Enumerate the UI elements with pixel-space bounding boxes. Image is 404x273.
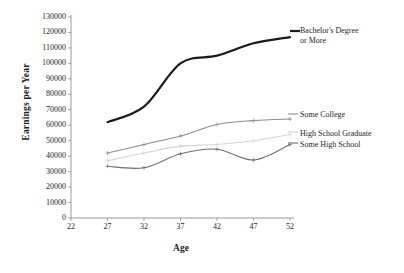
series-line-some-high-school [108, 145, 291, 169]
series-marker [106, 159, 110, 163]
series-marker [252, 139, 256, 143]
series-line-bachelor-s-degree-or-more [108, 37, 291, 122]
chart-figure: Earnings per Year 1300001200001100001000… [0, 0, 404, 273]
x-axis-title: Age [71, 243, 291, 253]
series-label-bachelors-degree: Bachelor's Degree or More [300, 26, 359, 45]
series-marker [215, 122, 219, 126]
series-marker [106, 164, 110, 168]
series-marker [215, 143, 219, 147]
series-label-high-school-graduate: High School Graduate [300, 129, 372, 139]
series-label-line1: Bachelor's Degree [300, 26, 359, 36]
series-marker [142, 151, 146, 155]
series-marker [252, 158, 256, 162]
figure-caption [4, 264, 400, 273]
series-marker [142, 143, 146, 147]
series-label-line2: or More [300, 36, 359, 46]
series-label-some-college: Some College [300, 110, 345, 120]
series-marker [215, 147, 219, 151]
series-marker [179, 152, 183, 156]
series-marker [288, 117, 292, 121]
series-marker [106, 151, 110, 155]
series-line-high-school-graduate [108, 135, 291, 161]
series-marker [179, 144, 183, 148]
series-marker [142, 166, 146, 170]
series-marker [288, 133, 292, 137]
series-marker [252, 119, 256, 123]
series-marker [179, 134, 183, 138]
series-label-some-high-school: Some High School [300, 140, 360, 150]
series-line-some-college [108, 119, 291, 153]
